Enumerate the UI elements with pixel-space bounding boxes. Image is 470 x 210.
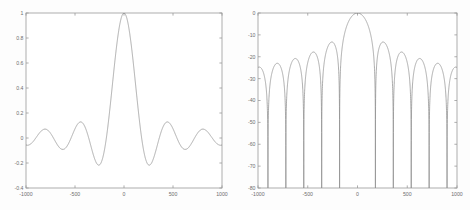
y-tick-label: -60 xyxy=(248,141,256,147)
x-tick-label: 0 xyxy=(356,191,359,197)
y-tick-label: -30 xyxy=(248,76,256,82)
x-tick-label: -500 xyxy=(70,191,80,197)
plot-background xyxy=(258,13,457,188)
y-tick-label: -0.4 xyxy=(15,185,24,191)
x-tick-label: 1000 xyxy=(451,191,463,197)
y-tick-label: -80 xyxy=(248,185,256,191)
y-tick-label: 1 xyxy=(21,10,24,16)
y-tick-label: -70 xyxy=(248,163,256,169)
y-tick-label: -20 xyxy=(248,54,256,60)
db-beam-pattern-panel: -1000-50005001000-80-70-60-50-40-30-20-1… xyxy=(235,0,470,210)
x-tick-label: 0 xyxy=(123,191,126,197)
x-tick-label: -1000 xyxy=(19,191,32,197)
y-tick-label: -50 xyxy=(248,119,256,125)
db-plot-axes: -1000-50005001000-80-70-60-50-40-30-20-1… xyxy=(235,0,470,210)
linear-plot-axes: -1000-50005001000-0.4-0.200.20.40.60.81 xyxy=(0,0,235,210)
y-tick-label: -10 xyxy=(248,32,256,38)
linear-beam-pattern-panel: -1000-50005001000-0.4-0.200.20.40.60.81 xyxy=(0,0,235,210)
plot-background xyxy=(26,13,222,188)
x-tick-label: -1000 xyxy=(251,191,264,197)
y-tick-label: 0.8 xyxy=(16,35,23,41)
x-tick-label: 500 xyxy=(403,191,412,197)
y-tick-label: 0 xyxy=(253,10,256,16)
x-tick-label: -500 xyxy=(303,191,313,197)
y-tick-label: 0.6 xyxy=(16,60,23,66)
y-tick-label: 0 xyxy=(21,135,24,141)
x-tick-label: 500 xyxy=(169,191,178,197)
y-tick-label: 0.2 xyxy=(16,110,23,116)
y-tick-label: 0.4 xyxy=(16,85,23,91)
x-tick-label: 1000 xyxy=(216,191,228,197)
matlab-figure-window: -1000-50005001000-0.4-0.200.20.40.60.81 … xyxy=(0,0,470,210)
y-tick-label: -40 xyxy=(248,97,256,103)
y-tick-label: -0.2 xyxy=(15,160,24,166)
